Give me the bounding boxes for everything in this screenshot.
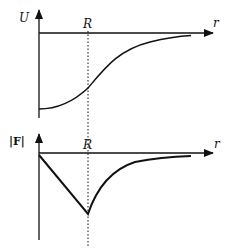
f-axis-label: |F|	[9, 135, 25, 148]
bottom-plot: |F| r R	[9, 134, 221, 240]
potential-curve	[39, 36, 191, 110]
r-marker-label-bottom: R	[82, 138, 92, 152]
r-marker-label-top: R	[82, 17, 92, 31]
force-curve	[39, 155, 191, 214]
figure: U r R |F| r R	[0, 0, 230, 249]
r-axis-label-top: r	[213, 16, 220, 30]
r-axis-label-bottom: r	[214, 137, 221, 151]
top-plot: U r R	[19, 10, 220, 118]
u-axis-label: U	[19, 11, 30, 25]
